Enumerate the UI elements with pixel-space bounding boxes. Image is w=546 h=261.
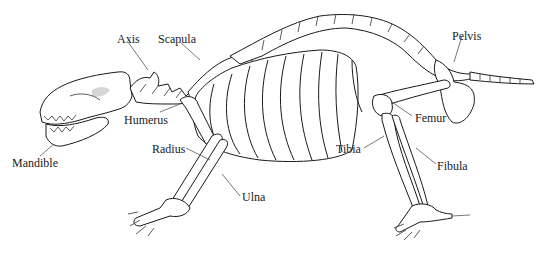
label-radius: Radius: [152, 143, 185, 155]
label-ulna: Ulna: [242, 191, 265, 203]
label-tibia: Tibia: [336, 143, 361, 155]
label-femur: Femur: [415, 112, 446, 124]
label-humerus: Humerus: [124, 114, 168, 126]
label-fibula: Fibula: [437, 160, 468, 172]
tail: [470, 72, 534, 84]
label-pelvis: Pelvis: [452, 30, 481, 42]
skull: [40, 72, 132, 124]
label-axis: Axis: [117, 33, 140, 45]
label-mandible: Mandible: [12, 157, 58, 169]
label-scapula: Scapula: [158, 33, 196, 45]
skeleton-diagram: Axis Scapula Pelvis Humerus Radius Mandi…: [0, 0, 546, 261]
